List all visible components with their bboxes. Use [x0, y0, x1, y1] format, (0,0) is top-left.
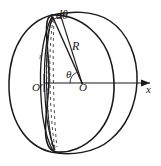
- label-center-o: O: [79, 82, 87, 93]
- label-radius-r: R: [72, 40, 79, 52]
- label-axis-x: x: [146, 84, 151, 95]
- label-center-o-prime: O′: [32, 82, 42, 93]
- label-d-theta: dθ: [56, 9, 68, 21]
- label-strip-radius-r: r: [39, 52, 43, 61]
- label-angle-theta: θ: [66, 69, 71, 80]
- sphere-disk-diagram: dθ R θ O O′ r x: [0, 0, 161, 166]
